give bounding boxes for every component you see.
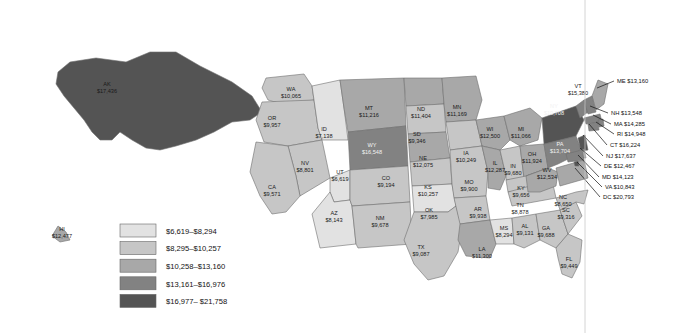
- state-label-hi: HI$12,477: [52, 226, 72, 239]
- state-nd[interactable]: [404, 78, 444, 106]
- state-ar[interactable]: [454, 196, 490, 224]
- callout-label-dc: DC $20,793: [603, 194, 634, 200]
- legend-swatch-4: [120, 277, 156, 290]
- state-sd[interactable]: [406, 104, 446, 134]
- map-svg: AK$17,436HI$12,477WA$10,065OR$9,957ID$7,…: [0, 0, 685, 333]
- state-label-ny: NY$19,708: [544, 103, 564, 116]
- map-legend: $6,619–$8,294$8,295–$10,257$10,258–$13,1…: [120, 224, 227, 307]
- state-label-ut: UT$6,619: [331, 169, 348, 182]
- us-choropleth-map: AK$17,436HI$12,477WA$10,065OR$9,957ID$7,…: [0, 0, 685, 333]
- callout-label-ct: CT $16,224: [610, 142, 641, 148]
- legend-label-1: $6,619–$8,294: [166, 227, 217, 236]
- callout-label-nj: NJ $17,637: [606, 153, 636, 159]
- callout-label-de: DE $12,467: [604, 163, 635, 169]
- legend-swatch-5: [120, 294, 156, 307]
- callout-label-ma: MA $14,285: [614, 121, 645, 127]
- legend-label-5: $16,977– $21,758: [166, 297, 227, 306]
- callout-label-md: MD $14,123: [602, 174, 634, 180]
- state-va[interactable]: [556, 160, 588, 186]
- legend-swatch-3: [120, 259, 156, 272]
- state-ak[interactable]: [56, 52, 262, 150]
- state-ok[interactable]: [412, 184, 456, 212]
- legend-label-3: $10,258–$13,160: [166, 262, 225, 271]
- legend-swatch-2: [120, 242, 156, 255]
- legend-swatch-1: [120, 224, 156, 237]
- legend-label-4: $13,161–$16,976: [166, 280, 225, 289]
- callout-label-nh: NH $13,548: [611, 110, 642, 116]
- legend-label-2: $8,295–$10,257: [166, 244, 221, 253]
- callout-label-me: ME $13,160: [617, 78, 648, 84]
- callout-label-ri: RI $14,948: [617, 131, 645, 137]
- state-ia[interactable]: [446, 120, 482, 150]
- callout-label-va: VA $10,843: [605, 184, 635, 190]
